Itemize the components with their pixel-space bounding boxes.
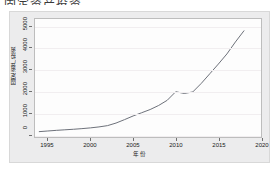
x-tick-mark <box>262 138 263 141</box>
plot-area <box>34 18 262 138</box>
gridline-y <box>35 48 261 49</box>
x-tick-label: 2000 <box>83 142 96 148</box>
y-axis-title: 固定资产投资 <box>9 46 17 85</box>
x-tick-label: 2020 <box>255 142 268 148</box>
gridline-y <box>35 114 261 115</box>
data-series-line <box>39 31 244 132</box>
gridline-y <box>35 70 261 71</box>
x-axis-title: 年份 <box>10 150 269 158</box>
y-tick-label: 1000 <box>22 104 28 117</box>
x-tick-mark <box>176 138 177 141</box>
figure-panel: 010002000300040005000 固定资产投资 19952000200… <box>9 11 270 163</box>
x-tick-label: 2005 <box>126 142 139 148</box>
y-tick-mark <box>29 69 32 70</box>
x-tick-label: 2015 <box>212 142 225 148</box>
x-tick-mark <box>47 138 48 141</box>
y-tick-label: 3000 <box>22 60 28 73</box>
gridline-y <box>35 27 261 28</box>
y-tick-label: 4000 <box>22 38 28 51</box>
x-tick-mark <box>90 138 91 141</box>
y-tick-mark <box>29 47 32 48</box>
x-tick-mark <box>133 138 134 141</box>
y-tick-label: 5000 <box>22 17 28 30</box>
x-axis-tick-labels: 199520002005201020152020 <box>34 140 262 150</box>
y-tick-mark <box>29 113 32 114</box>
gridline-y <box>35 136 261 137</box>
y-tick-mark <box>29 26 32 27</box>
x-tick-label: 1995 <box>40 142 53 148</box>
y-tick-mark <box>29 135 32 136</box>
y-tick-label: 2000 <box>22 82 28 95</box>
x-tick-mark <box>219 138 220 141</box>
y-tick-mark <box>29 91 32 92</box>
cropped-header-text: 固定资产投资 <box>4 0 82 5</box>
x-tick-label: 2010 <box>169 142 182 148</box>
gridline-y <box>35 92 261 93</box>
y-tick-label: 0 <box>22 126 28 129</box>
line-chart-svg <box>35 19 261 137</box>
